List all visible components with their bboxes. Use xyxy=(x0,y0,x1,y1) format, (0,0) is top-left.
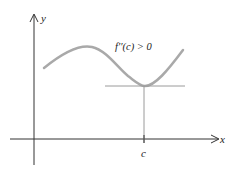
y-axis-label: y xyxy=(40,12,46,24)
c-tick-label: c xyxy=(141,147,146,159)
second-derivative-annotation: f′′(c) > 0 xyxy=(115,41,153,53)
concavity-diagram: y x f′′(c) > 0 c xyxy=(0,0,229,173)
function-curve xyxy=(44,47,183,86)
x-axis-label: x xyxy=(219,133,225,145)
